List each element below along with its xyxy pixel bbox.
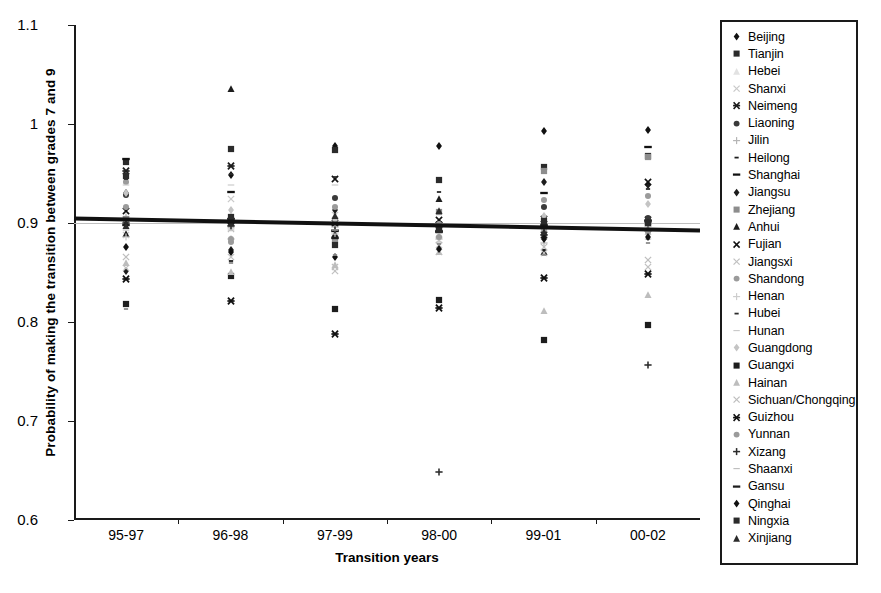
legend-item-qinghai[interactable]: Qinghai	[722, 495, 856, 512]
legend-marker-icon	[729, 324, 744, 338]
legend-marker-icon	[729, 82, 744, 96]
legend-marker-icon	[729, 185, 744, 199]
legend-marker-icon	[729, 479, 744, 493]
legend-item-label: Shandong	[744, 272, 804, 286]
legend-marker-icon	[729, 289, 744, 303]
legend-item-hainan[interactable]: Hainan	[722, 374, 856, 391]
legend-item-fujian[interactable]: Fujian	[722, 236, 856, 253]
legend-item-label: Hunan	[744, 324, 784, 338]
legend-box: BeijingTianjinHebeiShanxiNeimengLiaoning…	[720, 20, 858, 565]
legend-item-label: Xizang	[744, 445, 786, 459]
y-tick-label: 0.9	[0, 215, 38, 230]
legend-item-yunnan[interactable]: Yunnan	[722, 426, 856, 443]
x-tick-label: 96-98	[178, 528, 282, 542]
legend-marker-icon	[729, 255, 744, 269]
y-tick-label: 1.1	[0, 17, 38, 32]
legend-item-label: Jilin	[744, 133, 769, 147]
legend-item-hunan[interactable]: Hunan	[722, 322, 856, 339]
y-tick	[68, 520, 74, 521]
legend-item-shaanxi[interactable]: Shaanxi	[722, 460, 856, 477]
legend-item-gansu[interactable]: Gansu	[722, 478, 856, 495]
legend-item-label: Heilong	[744, 151, 790, 165]
chart-figure: Probability of making the transition bet…	[0, 0, 881, 593]
legend-item-label: Jiangsu	[744, 185, 790, 199]
legend-marker-icon	[729, 168, 744, 182]
x-tick-label: 95-97	[74, 528, 178, 542]
legend-item-label: Fujian	[744, 237, 781, 251]
legend-item-guizhou[interactable]: Guizhou	[722, 409, 856, 426]
legend-item-label: Guangxi	[744, 358, 794, 372]
y-axis-title: Probability of making the transition bet…	[43, 13, 58, 513]
legend-item-beijing[interactable]: Beijing	[722, 28, 856, 45]
legend-item-jiangsxi[interactable]: Jiangsxi	[722, 253, 856, 270]
legend-item-jilin[interactable]: Jilin	[722, 132, 856, 149]
legend-marker-icon	[729, 203, 744, 217]
legend-marker-icon	[729, 220, 744, 234]
legend-item-label: Hainan	[744, 376, 787, 390]
legend-marker-icon	[729, 427, 744, 441]
legend-item-guangxi[interactable]: Guangxi	[722, 357, 856, 374]
legend-item-shandong[interactable]: Shandong	[722, 270, 856, 287]
legend-item-label: Guangdong	[744, 341, 812, 355]
legend-marker-icon	[729, 116, 744, 130]
legend-item-label: Zhejiang	[744, 203, 795, 217]
legend-marker-icon	[729, 358, 744, 372]
legend-item-heilong[interactable]: Heilong	[722, 149, 856, 166]
legend-item-shanxi[interactable]: Shanxi	[722, 80, 856, 97]
legend-marker-icon	[729, 341, 744, 355]
legend-marker-icon	[729, 99, 744, 113]
x-axis-title: Transition years	[74, 550, 700, 565]
legend-marker-icon	[729, 151, 744, 165]
x-tick-label: 00-02	[596, 528, 700, 542]
x-tick-label: 98-00	[387, 528, 491, 542]
legend-item-liaoning[interactable]: Liaoning	[722, 114, 856, 131]
legend-item-xinjiang[interactable]: Xinjiang	[722, 530, 856, 547]
y-tick-label: 1	[0, 116, 38, 131]
legend-item-shanghai[interactable]: Shanghai	[722, 166, 856, 183]
legend-item-hebei[interactable]: Hebei	[722, 63, 856, 80]
legend-item-label: Tianjin	[744, 47, 784, 61]
legend-item-xizang[interactable]: Xizang	[722, 443, 856, 460]
legend-item-label: Gansu	[744, 479, 784, 493]
legend-item-label: Guizhou	[744, 410, 794, 424]
legend-item-neimeng[interactable]: Neimeng	[722, 97, 856, 114]
legend-marker-icon	[729, 514, 744, 528]
legend-item-jiangsu[interactable]: Jiangsu	[722, 184, 856, 201]
legend-marker-icon	[729, 133, 744, 147]
x-tick-label: 99-01	[491, 528, 595, 542]
legend-marker-icon	[729, 376, 744, 390]
legend-item-label: Shaanxi	[744, 462, 792, 476]
plot-area: 0.60.70.80.911.1 95-9796-9897-9998-0099-…	[74, 25, 700, 520]
y-tick-label: 0.7	[0, 413, 38, 428]
legend-item-zhejiang[interactable]: Zhejiang	[722, 201, 856, 218]
legend-item-label: Qinghai	[744, 497, 790, 511]
legend-marker-icon	[729, 410, 744, 424]
legend-item-label: Anhui	[744, 220, 779, 234]
legend-marker-icon	[729, 237, 744, 251]
legend-item-label: Yunnan	[744, 427, 790, 441]
legend-item-label: Henan	[744, 289, 784, 303]
legend-marker-icon	[729, 462, 744, 476]
legend-item-ningxia[interactable]: Ningxia	[722, 512, 856, 529]
legend-item-label: Hubei	[744, 306, 780, 320]
y-tick-label: 0.8	[0, 314, 38, 329]
legend-item-tianjin[interactable]: Tianjin	[722, 45, 856, 62]
legend-item-hubei[interactable]: Hubei	[722, 305, 856, 322]
legend-item-henan[interactable]: Henan	[722, 287, 856, 304]
legend-item-label: Xinjiang	[744, 531, 792, 545]
legend-item-anhui[interactable]: Anhui	[722, 218, 856, 235]
legend-marker-icon	[729, 393, 744, 407]
x-tick-label: 97-99	[283, 528, 387, 542]
legend-item-label: Shanxi	[744, 82, 786, 96]
legend-item-sichuan-chongqing[interactable]: Sichuan/Chongqing	[722, 391, 856, 408]
legend-item-label: Hebei	[744, 64, 780, 78]
trendline	[74, 25, 700, 520]
y-tick-label: 0.6	[0, 512, 38, 527]
legend-item-label: Ningxia	[744, 514, 789, 528]
legend-marker-icon	[729, 272, 744, 286]
legend-item-guangdong[interactable]: Guangdong	[722, 339, 856, 356]
legend-marker-icon	[729, 497, 744, 511]
legend-marker-icon	[729, 47, 744, 61]
legend-item-label: Sichuan/Chongqing	[744, 393, 855, 407]
legend-item-label: Shanghai	[744, 168, 800, 182]
